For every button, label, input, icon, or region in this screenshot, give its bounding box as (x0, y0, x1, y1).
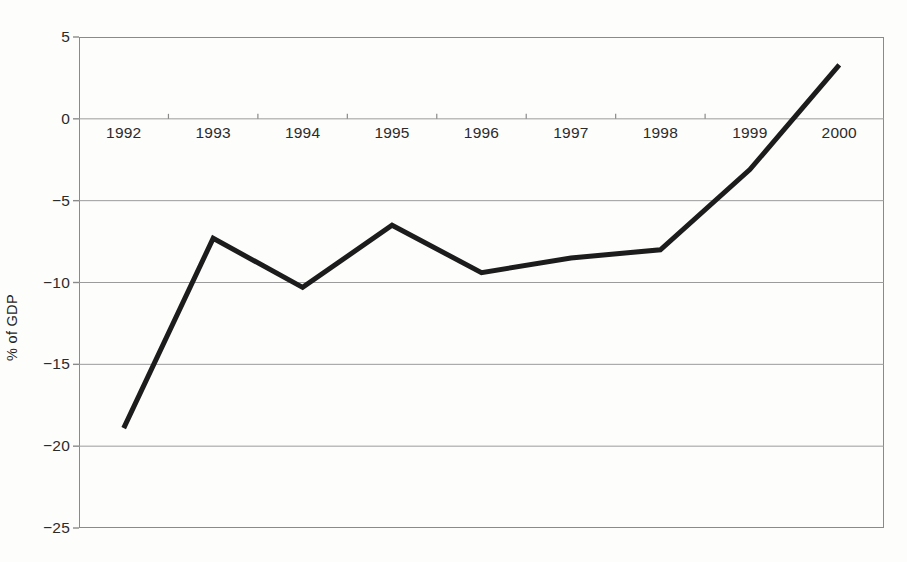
x-axis-tick-label: 1999 (732, 124, 767, 142)
x-axis-tick-label: 1996 (464, 124, 499, 142)
plot-area-frame (79, 37, 884, 528)
y-axis-tick-label: −5 (52, 192, 70, 210)
y-axis-tick-label: −15 (43, 355, 70, 373)
x-axis-tick-label: 1997 (553, 124, 588, 142)
x-axis-tick-label: 1994 (285, 124, 320, 142)
chart-page: % of GDP 50−5−10−15−20−25 19921993199419… (0, 0, 907, 562)
x-axis-tick-label: 1993 (196, 124, 231, 142)
x-axis-tick-label: 1998 (643, 124, 678, 142)
y-axis-tick-label: 5 (61, 28, 70, 46)
y-axis-tick-label: −20 (43, 437, 70, 455)
y-axis-title: % of GDP (4, 231, 20, 361)
x-axis-tick-label: 1992 (106, 124, 141, 142)
y-axis-tick-label: 0 (61, 110, 70, 128)
y-axis-tick-label: −25 (43, 519, 70, 537)
y-axis-tick-label: −10 (43, 274, 70, 292)
x-axis-tick-label: 1995 (374, 124, 409, 142)
x-axis-tick-label: 2000 (822, 124, 857, 142)
